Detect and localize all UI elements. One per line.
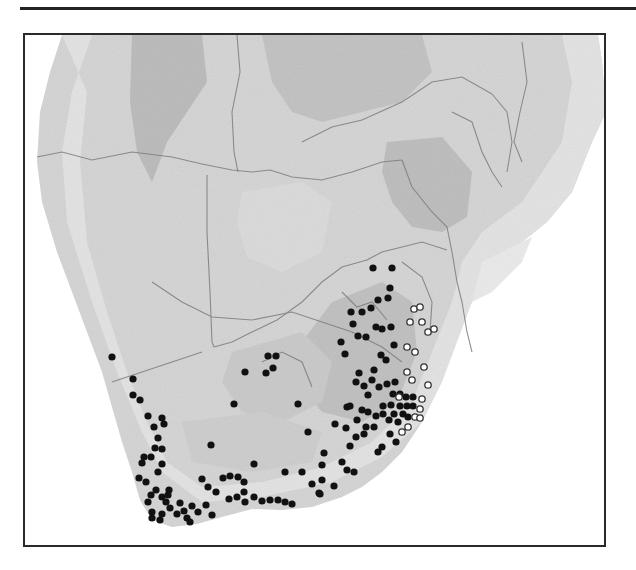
filled-record-dot [349, 320, 356, 327]
filled-record-dot [281, 498, 288, 505]
filled-record-dot [318, 461, 325, 468]
filled-record-dot [154, 468, 161, 475]
open-record-circle [419, 319, 425, 325]
filled-record-dot [240, 488, 247, 495]
filled-record-dot [142, 478, 149, 485]
open-record-circle [431, 326, 437, 332]
filled-record-dot [148, 514, 155, 521]
filled-record-dot [362, 423, 369, 430]
filled-record-dot [233, 493, 240, 500]
filled-record-dot [272, 352, 279, 359]
filled-record-dot [264, 352, 271, 359]
open-record-circle [417, 415, 423, 421]
open-record-circle [412, 349, 418, 355]
filled-record-dot [331, 420, 338, 427]
filled-record-dot [358, 308, 365, 315]
filled-record-dot [360, 430, 367, 437]
filled-record-dot [262, 369, 269, 376]
filled-record-dot [388, 264, 395, 271]
filled-record-dot [176, 499, 183, 506]
filled-record-dot [392, 438, 399, 445]
filled-record-dot [154, 434, 161, 441]
open-record-circle [404, 344, 410, 350]
filled-record-dot [204, 483, 211, 490]
filled-record-dot [274, 496, 281, 503]
filled-record-dot [208, 511, 215, 518]
filled-record-dot [129, 391, 136, 398]
filled-record-dot [378, 443, 385, 450]
filled-record-dot [226, 472, 233, 479]
open-record-circle [409, 377, 415, 383]
filled-record-dot [390, 410, 397, 417]
filled-record-dot [266, 496, 273, 503]
filled-record-dot [347, 308, 354, 315]
filled-record-dot [269, 364, 276, 371]
filled-record-dot [384, 294, 391, 301]
map-frame [23, 33, 606, 547]
filled-record-dot [160, 420, 167, 427]
filled-record-dot [281, 468, 288, 475]
filled-record-dot [337, 338, 344, 345]
filled-record-dot [202, 501, 209, 508]
filled-record-dot [350, 468, 357, 475]
filled-record-dot [308, 480, 315, 487]
filled-record-dot [298, 468, 305, 475]
filled-record-dot [369, 264, 376, 271]
filled-record-dot [194, 508, 201, 515]
filled-record-dot [382, 356, 389, 363]
filled-record-dot [385, 416, 392, 423]
filled-record-dot [230, 400, 237, 407]
filled-record-dot [136, 396, 143, 403]
filled-record-dot [409, 393, 416, 400]
filled-record-dot [135, 474, 142, 481]
filled-record-dot [316, 490, 323, 497]
filled-record-dot [367, 304, 374, 311]
filled-record-dot [378, 325, 385, 332]
filled-record-dot [346, 442, 353, 449]
filled-record-dot [320, 449, 327, 456]
open-record-circle [417, 406, 423, 412]
filled-record-dot [352, 433, 359, 440]
filled-record-dot [391, 378, 398, 385]
filled-record-dot [370, 423, 377, 430]
filled-record-dot [198, 475, 205, 482]
filled-record-dot [330, 482, 337, 489]
filled-record-dot [207, 441, 214, 448]
open-record-circle [405, 424, 411, 430]
filled-record-dot [151, 444, 158, 451]
open-record-circle [404, 369, 410, 375]
open-record-circle [419, 396, 425, 402]
filled-record-dot [364, 408, 371, 415]
filled-record-dot [138, 459, 145, 466]
filled-record-dot [147, 491, 154, 498]
filled-record-dot [225, 495, 232, 502]
open-record-circle [399, 429, 405, 435]
filled-record-dot [240, 478, 247, 485]
filled-record-dot [404, 413, 411, 420]
filled-record-dot [341, 350, 348, 357]
filled-record-dot [212, 488, 219, 495]
filled-record-dot [342, 424, 349, 431]
filled-record-dot [234, 473, 241, 480]
filled-record-dot [396, 402, 403, 409]
filled-record-dot [353, 416, 360, 423]
filled-record-dot [162, 498, 169, 505]
filled-record-dot [150, 423, 157, 430]
filled-record-dot [318, 476, 325, 483]
filled-record-dot [241, 498, 248, 505]
filled-record-dot [352, 378, 359, 385]
filled-record-dot [354, 332, 361, 339]
filled-record-dot [165, 486, 172, 493]
filled-record-dot [294, 400, 301, 407]
filled-record-dot [379, 402, 386, 409]
filled-record-dot [241, 368, 248, 375]
filled-record-dot [372, 412, 379, 419]
filled-record-dot [129, 375, 136, 382]
top-rule [20, 7, 636, 10]
filled-record-dot [188, 502, 195, 509]
open-record-circle [425, 382, 431, 388]
filled-record-dot [379, 410, 386, 417]
filled-record-dot [387, 323, 394, 330]
open-record-circle [417, 304, 423, 310]
filled-record-dot [180, 507, 187, 514]
